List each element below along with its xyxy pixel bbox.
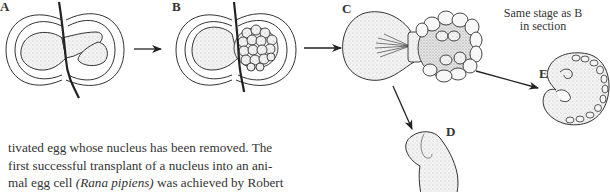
species-name: (Rana pipiens) — [76, 175, 154, 190]
section-note-line2: in section — [520, 19, 566, 33]
body-line-3: mal egg cell (Rana pipiens) was achieved… — [8, 174, 308, 192]
panel-label-d: D — [446, 124, 455, 139]
panel-e-drawing — [543, 53, 609, 125]
panel-label-b: B — [172, 0, 181, 14]
panel-d-drawing — [406, 132, 458, 192]
panel-a-drawing — [6, 2, 124, 98]
panel-label-a: A — [0, 0, 10, 14]
body-line-3-start: mal egg cell — [8, 175, 76, 190]
body-line-3-end: was achieved by Robert — [154, 175, 284, 190]
body-line-2: first successful transplant of a nucleus… — [8, 157, 308, 175]
section-note-line1: Same stage as B — [504, 6, 582, 20]
panel-label-e: E — [539, 66, 548, 81]
body-paragraph: tivated egg whose nucleus has been remov… — [8, 139, 308, 192]
panel-b-drawing — [176, 2, 296, 92]
panel-label-c: C — [342, 1, 351, 16]
arrow-c-to-e — [476, 71, 538, 88]
body-line-1: tivated egg whose nucleus has been remov… — [8, 139, 308, 157]
arrow-c-to-d — [393, 86, 412, 129]
panel-c-drawing — [343, 11, 482, 82]
